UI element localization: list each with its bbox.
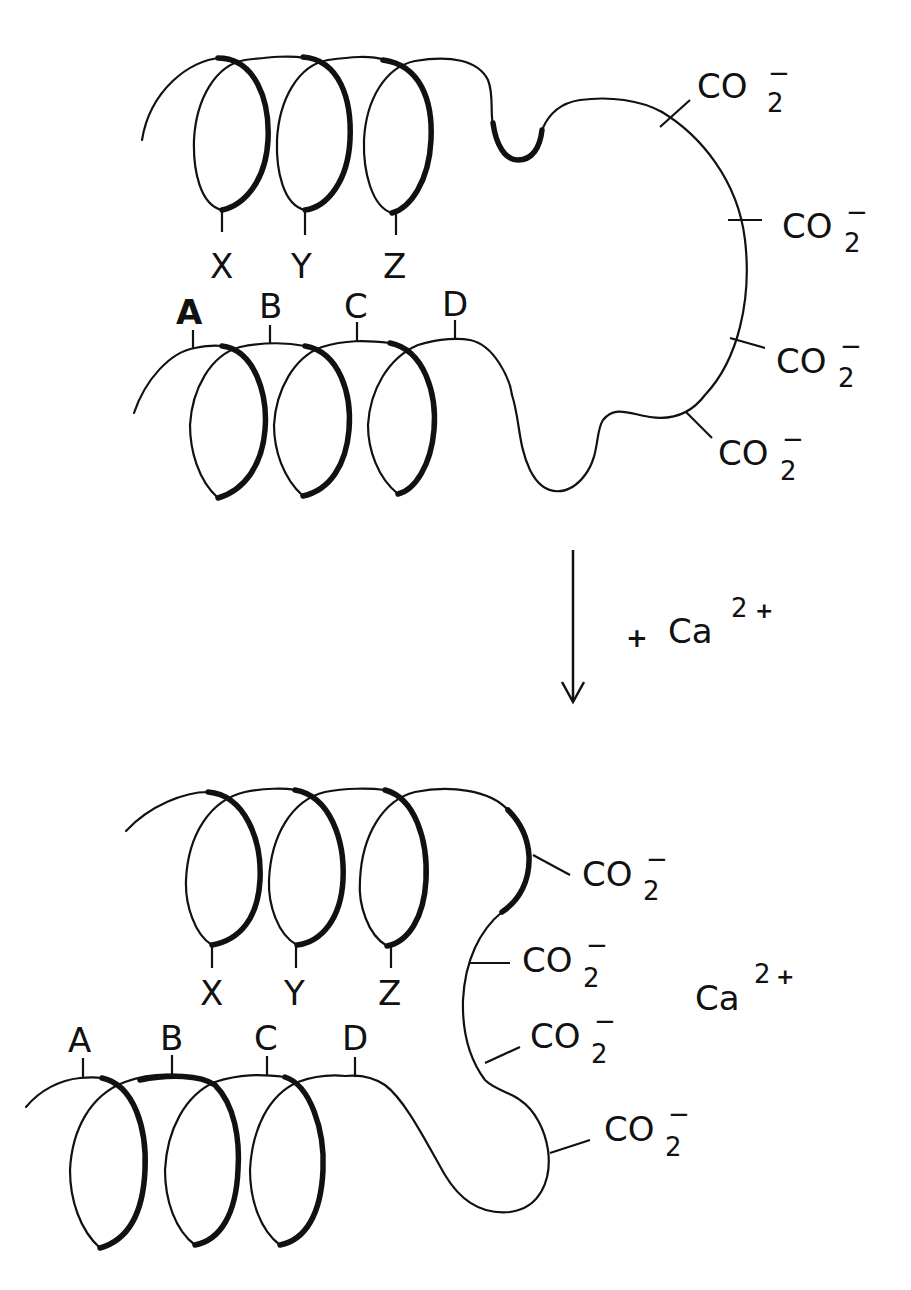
svg-text:−: − <box>594 1006 616 1036</box>
svg-text:CO: CO <box>530 1016 581 1056</box>
reagent-ca: Ca <box>668 611 713 651</box>
label-y: Y <box>290 246 312 286</box>
top-carboxylate-3: CO 2 − <box>776 331 862 393</box>
svg-text:CO: CO <box>604 1109 655 1149</box>
svg-text:+: + <box>776 964 794 989</box>
svg-text:−: − <box>668 1099 690 1129</box>
svg-text:2: 2 <box>665 1132 682 1162</box>
bottom-upper-helix: X Y Z <box>126 789 549 1213</box>
reagent-charge-plus: + <box>755 598 773 623</box>
bottom-carboxylate-1: CO 2 − <box>582 844 668 906</box>
label-x: X <box>210 246 233 286</box>
svg-text:2: 2 <box>643 876 660 906</box>
svg-text:CO: CO <box>697 66 748 106</box>
bottom-carboxylate-2: CO 2 − <box>522 930 608 993</box>
svg-text:−: − <box>846 197 868 227</box>
svg-text:−: − <box>782 424 804 454</box>
bottom-carboxylate-3: CO 2 − <box>530 1006 616 1069</box>
svg-text:2: 2 <box>754 959 771 989</box>
svg-text:2: 2 <box>767 88 784 118</box>
label-a: A <box>176 292 203 332</box>
svg-text:−: − <box>586 930 608 960</box>
top-lower-helix: A B C D <box>134 284 512 498</box>
svg-text:CO: CO <box>582 854 633 894</box>
svg-text:−: − <box>768 58 790 88</box>
calcium-binding-diagram: X Y Z CO 2 − CO 2 − CO 2 − <box>0 0 911 1290</box>
bottom-state: X Y Z CO 2 − CO 2 − CO 2 − CO 2 <box>26 789 794 1248</box>
top-upper-helix: X Y Z <box>142 57 662 286</box>
bound-calcium-ion: Ca 2 + <box>695 959 794 1018</box>
label-b: B <box>259 286 282 326</box>
label-c: C <box>344 286 368 326</box>
diagram-canvas: X Y Z CO 2 − CO 2 − CO 2 − <box>0 0 911 1290</box>
label-d: D <box>342 1018 368 1058</box>
label-y: Y <box>283 973 305 1013</box>
label-c: C <box>254 1018 278 1058</box>
label-a: A <box>68 1020 91 1060</box>
svg-text:−: − <box>840 331 862 361</box>
svg-text:2: 2 <box>583 963 600 993</box>
svg-text:CO: CO <box>776 341 827 381</box>
svg-text:2: 2 <box>838 363 855 393</box>
label-d: D <box>442 284 468 324</box>
bottom-lower-helix: A B C D <box>26 1018 368 1248</box>
svg-text:2: 2 <box>591 1039 608 1069</box>
svg-text:CO: CO <box>718 433 769 473</box>
plus-sign: + <box>626 623 648 653</box>
svg-text:2: 2 <box>844 228 861 258</box>
label-z: Z <box>383 246 406 286</box>
svg-text:−: − <box>646 844 668 874</box>
reagent-charge-2: 2 <box>731 593 748 623</box>
label-x: X <box>200 973 223 1013</box>
top-carboxylate-4: CO 2 − <box>718 424 804 486</box>
svg-text:Ca: Ca <box>695 978 740 1018</box>
top-state: X Y Z CO 2 − CO 2 − CO 2 − <box>134 57 868 498</box>
svg-text:CO: CO <box>522 940 573 980</box>
svg-text:CO: CO <box>782 206 833 246</box>
svg-text:2: 2 <box>780 456 797 486</box>
top-carboxylate-2: CO 2 − <box>782 197 868 258</box>
bottom-carboxylate-4: CO 2 − <box>604 1099 690 1162</box>
top-carboxylate-1: CO 2 − <box>697 58 790 118</box>
transition: + Ca 2 + <box>562 550 773 702</box>
label-b: B <box>160 1018 183 1058</box>
label-z: Z <box>378 973 401 1013</box>
